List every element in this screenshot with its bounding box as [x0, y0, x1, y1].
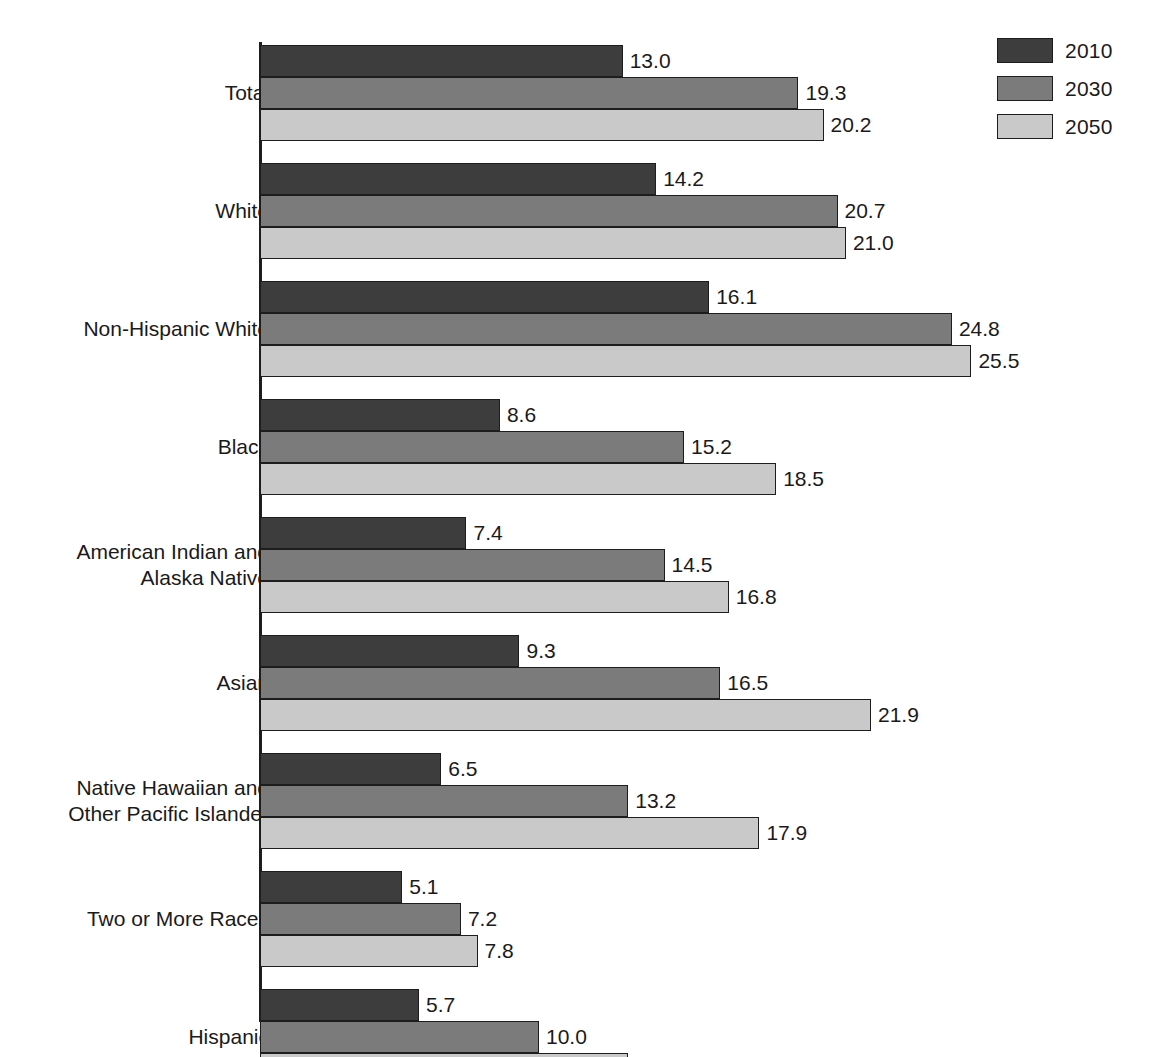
bar-2010[interactable] [260, 45, 623, 77]
bar-row: 9.3 [260, 635, 639, 667]
bar-value-label: 16.1 [709, 285, 757, 309]
bar-row: 13.2 [260, 1053, 748, 1057]
bar-value-label: 15.2 [684, 435, 732, 459]
legend-label: 2030 [1065, 77, 1113, 101]
bar-row: 24.8 [260, 313, 1072, 345]
bar-value-label: 14.5 [665, 553, 713, 577]
bar-row: 14.2 [260, 163, 776, 195]
bar-value-label: 9.3 [519, 639, 555, 663]
legend-label: 2050 [1065, 115, 1113, 139]
legend-swatch-2030 [997, 76, 1053, 101]
bar-2050[interactable] [260, 109, 824, 141]
bar-row: 13.2 [260, 785, 748, 817]
bar-row: 25.5 [260, 345, 1091, 377]
bar-group: American Indian and Alaska Native7.414.5… [0, 517, 1150, 613]
category-label: American Indian and Alaska Native [0, 539, 269, 591]
bar-2050[interactable] [260, 463, 776, 495]
bar-value-label: 17.9 [759, 821, 807, 845]
bar-value-label: 5.1 [402, 875, 438, 899]
bar-2050[interactable] [260, 817, 759, 849]
bar-value-label: 16.8 [729, 585, 777, 609]
bar-row: 19.3 [260, 77, 918, 109]
bar-value-label: 13.2 [628, 789, 676, 813]
bar-2010[interactable] [260, 753, 441, 785]
bar-group: Non-Hispanic White16.124.825.5 [0, 281, 1150, 377]
bar-value-label: 7.4 [466, 521, 502, 545]
bar-2050[interactable] [260, 699, 871, 731]
bar-2030[interactable] [260, 77, 798, 109]
bar-value-label: 7.2 [461, 907, 497, 931]
bar-2030[interactable] [260, 667, 720, 699]
bar-2010[interactable] [260, 281, 709, 313]
category-label: Non-Hispanic White [0, 316, 269, 342]
bar-2030[interactable] [260, 431, 684, 463]
bar-group: Two or More Races5.17.27.8 [0, 871, 1150, 967]
bar-row: 20.2 [260, 109, 944, 141]
bar-row: 5.7 [260, 989, 539, 1021]
bar-row: 15.2 [260, 431, 804, 463]
bar-group: Total13.019.320.2 [0, 45, 1150, 141]
bar-2050[interactable] [260, 345, 971, 377]
bar-value-label: 16.5 [720, 671, 768, 695]
bar-row: 21.9 [260, 699, 991, 731]
bar-row: 7.4 [260, 517, 586, 549]
legend: 201020302050 [997, 38, 1113, 139]
bar-2010[interactable] [260, 399, 500, 431]
bar-row: 6.5 [260, 753, 561, 785]
legend-label: 2010 [1065, 39, 1113, 63]
legend-item-2050[interactable]: 2050 [997, 114, 1113, 139]
bar-row: 21.0 [260, 227, 966, 259]
bar-value-label: 18.5 [776, 467, 824, 491]
bar-value-label: 14.2 [656, 167, 704, 191]
bar-2050[interactable] [260, 935, 478, 967]
bar-row: 10.0 [260, 1021, 659, 1053]
chart-figure: Total13.019.320.2White14.220.721.0Non-Hi… [0, 0, 1150, 1057]
bar-group: Native Hawaiian and Other Pacific Island… [0, 753, 1150, 849]
bar-value-label: 20.7 [838, 199, 886, 223]
bar-value-label: 19.3 [798, 81, 846, 105]
bar-value-label: 5.7 [419, 993, 455, 1017]
bar-value-label: 13.0 [623, 49, 671, 73]
bar-value-label: 6.5 [441, 757, 477, 781]
bar-row: 16.5 [260, 667, 840, 699]
bar-row: 7.2 [260, 903, 581, 935]
bar-group: Asian9.316.521.9 [0, 635, 1150, 731]
legend-swatch-2050 [997, 114, 1053, 139]
bar-2050[interactable] [260, 1053, 628, 1057]
bar-row: 14.5 [260, 549, 785, 581]
bar-value-label: 21.9 [871, 703, 919, 727]
bar-value-label: 8.6 [500, 403, 536, 427]
bar-2030[interactable] [260, 1021, 539, 1053]
bar-2030[interactable] [260, 195, 838, 227]
legend-item-2030[interactable]: 2030 [997, 76, 1113, 101]
bar-value-label: 7.8 [478, 939, 514, 963]
bar-2010[interactable] [260, 163, 656, 195]
bar-2010[interactable] [260, 517, 466, 549]
bar-row: 8.6 [260, 399, 620, 431]
bar-2050[interactable] [260, 227, 846, 259]
bar-2010[interactable] [260, 871, 402, 903]
bar-row: 7.8 [260, 935, 598, 967]
plot-area: Total13.019.320.2White14.220.721.0Non-Hi… [0, 0, 1150, 1057]
bar-value-label: 24.8 [952, 317, 1000, 341]
bar-group: Black8.615.218.5 [0, 399, 1150, 495]
bar-row: 20.7 [260, 195, 958, 227]
bar-2030[interactable] [260, 785, 628, 817]
category-label: Total [0, 80, 269, 106]
category-label: Hispanic [0, 1024, 269, 1050]
bar-2030[interactable] [260, 549, 665, 581]
bar-value-label: 10.0 [539, 1025, 587, 1049]
bar-2010[interactable] [260, 635, 519, 667]
bar-row: 5.1 [260, 871, 522, 903]
category-label: Black [0, 434, 269, 460]
bar-row: 16.1 [260, 281, 829, 313]
bar-row: 18.5 [260, 463, 896, 495]
bar-2050[interactable] [260, 581, 729, 613]
bar-2030[interactable] [260, 903, 461, 935]
bar-2030[interactable] [260, 313, 952, 345]
bar-row: 16.8 [260, 581, 849, 613]
legend-swatch-2010 [997, 38, 1053, 63]
bar-2010[interactable] [260, 989, 419, 1021]
legend-item-2010[interactable]: 2010 [997, 38, 1113, 63]
category-label: Asian [0, 670, 269, 696]
